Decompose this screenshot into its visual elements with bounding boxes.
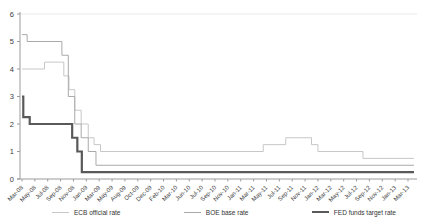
series-line-ecb-official-rate <box>22 62 414 158</box>
y-axis-tick-label: 4 <box>10 65 14 74</box>
x-axis-tick-label: Jun-10 <box>174 184 192 202</box>
y-axis-tick-label: 3 <box>10 92 14 101</box>
fed-line-marker <box>312 211 329 213</box>
chart-legend: ECB official rate BOE base rate FED fund… <box>0 204 424 220</box>
y-axis-tick-label: 0 <box>10 175 14 184</box>
central-bank-rates-chart: 0123456Mar-08May-08Jul-08Sep-08Nov-08Jan… <box>0 0 424 222</box>
y-axis-tick-label: 2 <box>10 120 14 129</box>
legend-item-ecb: ECB official rate <box>52 209 120 216</box>
y-axis-tick-label: 6 <box>10 10 14 19</box>
y-axis-tick-label: 5 <box>10 37 14 46</box>
legend-label-ecb: ECB official rate <box>74 209 120 216</box>
ecb-line-marker <box>52 212 69 213</box>
legend-item-boe: BOE base rate <box>184 209 249 216</box>
legend-item-fed: FED funds target rate <box>312 209 396 216</box>
chart-plot-area: 0123456Mar-08May-08Jul-08Sep-08Nov-08Jan… <box>0 0 424 204</box>
series-line-boe-base-rate <box>22 35 414 166</box>
boe-line-marker <box>184 212 201 213</box>
legend-label-boe: BOE base rate <box>206 209 249 216</box>
legend-label-fed: FED funds target rate <box>334 209 396 216</box>
y-axis-tick-label: 1 <box>10 147 14 156</box>
